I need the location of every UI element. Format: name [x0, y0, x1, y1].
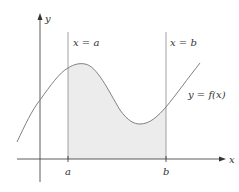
tick-a-label: a [65, 166, 71, 177]
area-under-curve-diagram: y x x = a x = b y = f(x) a b [0, 0, 239, 192]
x-equals-b-label: x = b [170, 37, 197, 48]
shaded-region [68, 64, 166, 159]
x-axis-arrow-icon [219, 157, 226, 162]
x-equals-a-label: x = a [73, 37, 99, 48]
x-axis-label: x [229, 154, 235, 165]
y-axis-arrow-icon [38, 13, 43, 20]
curve-label: y = f(x) [187, 89, 226, 100]
tick-b-label: b [163, 166, 169, 177]
y-axis-label: y [44, 13, 51, 24]
